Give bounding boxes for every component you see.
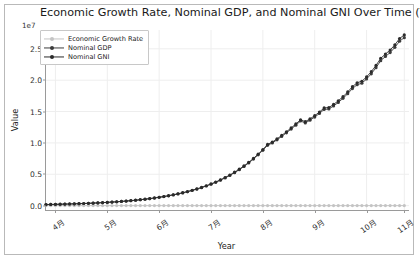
y-axis-offset-label: 1e7 bbox=[22, 21, 36, 30]
legend-item[interactable]: Economic Growth Rate bbox=[44, 34, 143, 43]
figure: Economic Growth Rate, Nominal GDP, and N… bbox=[0, 0, 420, 263]
y-axis-tick-label: 1.5 bbox=[30, 107, 42, 116]
legend-item-label: Economic Growth Rate bbox=[68, 35, 143, 43]
y-axis-tick-mark bbox=[43, 205, 46, 206]
y-axis-tick-mark bbox=[43, 142, 46, 143]
x-axis-tick-mark bbox=[315, 210, 316, 213]
legend-marker-icon bbox=[44, 43, 64, 52]
chart-title: Economic Growth Rate, Nominal GDP, and N… bbox=[40, 5, 418, 21]
legend-item-label: Nominal GNI bbox=[68, 53, 109, 61]
y-axis-tick-mark bbox=[43, 111, 46, 112]
y-axis-label: Value bbox=[10, 30, 20, 210]
legend-marker-icon bbox=[44, 34, 64, 43]
x-axis-tick-mark bbox=[55, 210, 56, 213]
y-axis-tick-mark bbox=[43, 80, 46, 81]
chart-legend[interactable]: Economic Growth RateNominal GDPNominal G… bbox=[40, 30, 149, 65]
x-axis-tick-mark bbox=[404, 210, 405, 213]
x-axis-tick-mark bbox=[159, 210, 160, 213]
legend-item[interactable]: Nominal GNI bbox=[44, 52, 143, 61]
y-axis-tick-label: 1.0 bbox=[30, 138, 42, 147]
legend-item[interactable]: Nominal GDP bbox=[44, 43, 143, 52]
y-axis-tick-mark bbox=[43, 174, 46, 175]
x-axis-tick-mark bbox=[263, 210, 264, 213]
x-axis-tick-mark bbox=[211, 210, 212, 213]
series-1 bbox=[44, 204, 405, 207]
y-axis-tick-label: 0.0 bbox=[30, 201, 42, 210]
x-axis-tick-mark bbox=[367, 210, 368, 213]
y-axis-tick-label: 0.5 bbox=[30, 170, 42, 179]
x-axis-label: Year bbox=[45, 241, 408, 251]
legend-item-label: Nominal GDP bbox=[68, 44, 112, 52]
y-axis-tick-label: 2.0 bbox=[30, 76, 42, 85]
x-axis-tick-mark bbox=[107, 210, 108, 213]
legend-marker-icon bbox=[44, 52, 64, 61]
y-axis-label-text: Value bbox=[10, 109, 20, 131]
